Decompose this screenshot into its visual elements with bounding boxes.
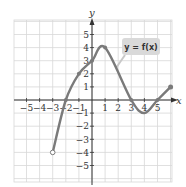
- curve-point: [156, 98, 160, 102]
- x-tick-label: −4: [33, 103, 47, 113]
- x-tick-label: −3: [46, 103, 60, 113]
- y-tick-label: 5: [83, 30, 89, 40]
- curve-point: [129, 98, 133, 102]
- curve-point: [103, 46, 107, 50]
- function-graph: −5−4−3−2−11234554321−1−2−3−4−5 y = f(x) …: [0, 0, 186, 187]
- y-tick-label: −1: [76, 108, 89, 118]
- y-tick-label: 1: [83, 82, 89, 92]
- callout-pointer: [116, 55, 125, 68]
- x-tick-label: −5: [20, 103, 34, 113]
- x-tick-label: −2: [59, 103, 72, 113]
- function-label: y = f(x): [124, 43, 157, 52]
- x-axis-label: x: [176, 95, 182, 106]
- open-endpoint: [50, 150, 55, 155]
- function-curve: [53, 46, 171, 152]
- closed-endpoint: [168, 84, 173, 89]
- y-tick-label: −3: [76, 135, 90, 145]
- y-tick-label: 2: [83, 69, 89, 79]
- y-tick-label: 4: [83, 43, 89, 53]
- x-tick-label: 1: [102, 103, 108, 113]
- y-tick-label: −5: [76, 161, 90, 171]
- curve-point: [64, 98, 68, 102]
- curve-point: [77, 72, 81, 76]
- y-tick-label: −2: [76, 121, 89, 131]
- y-tick-label: −4: [76, 148, 90, 158]
- y-axis-label: y: [88, 7, 95, 18]
- function-label-callout: y = f(x): [116, 38, 160, 68]
- curve-point: [90, 59, 94, 63]
- x-tick-label: 5: [155, 103, 161, 113]
- x-tick-label: 2: [115, 103, 121, 113]
